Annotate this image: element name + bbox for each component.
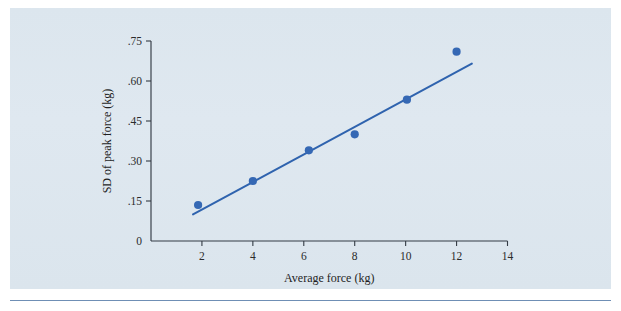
x-tick-label: 10: [400, 250, 412, 262]
x-tick-label: 6: [301, 250, 307, 262]
horizontal-rule: [10, 300, 611, 301]
x-tick-label: 8: [352, 250, 358, 262]
x-tick-label: 2: [199, 250, 205, 262]
y-tick-label: 0: [136, 235, 142, 247]
scatter-plot: 0.15.30.45.60.752468101214Average force …: [0, 0, 621, 311]
y-tick-label: .75: [128, 35, 143, 47]
data-point: [249, 177, 257, 185]
x-tick-label: 4: [250, 250, 256, 262]
regression-line: [193, 64, 472, 215]
y-tick-label: .15: [128, 195, 143, 207]
y-tick-label: .60: [128, 75, 143, 87]
y-tick-label: .30: [128, 155, 143, 167]
data-point: [452, 48, 460, 56]
data-point: [351, 130, 359, 138]
x-axis-title: Average force (kg): [284, 271, 374, 285]
x-tick-label: 12: [451, 250, 463, 262]
data-point: [194, 201, 202, 209]
data-point: [403, 96, 411, 104]
x-tick-label: 14: [502, 250, 514, 262]
y-axis-title: SD of peak force (kg): [100, 89, 114, 194]
y-tick-label: .45: [128, 115, 143, 127]
figure-root: 0.15.30.45.60.752468101214Average force …: [0, 0, 621, 311]
data-point: [305, 146, 313, 154]
